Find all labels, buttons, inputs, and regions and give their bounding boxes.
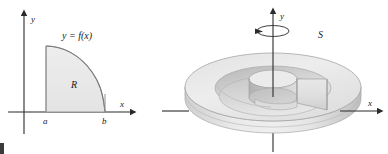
figure-container: y x y = f(x) R a b <box>0 0 388 154</box>
right-bound-label-b: b <box>102 116 107 126</box>
region-panel: y x y = f(x) R a b <box>8 14 131 134</box>
curve-equation-label: y = f(x) <box>61 30 93 42</box>
solid-panel: y x S <box>162 11 378 152</box>
region-x-axis-label: x <box>119 99 124 109</box>
solid-x-axis-label: x <box>367 98 372 108</box>
solid-y-axis-label: y <box>279 11 284 21</box>
solid-label-S: S <box>318 29 323 40</box>
region-y-axis-label: y <box>30 14 35 24</box>
figure-svg: y x y = f(x) R a b <box>0 0 388 154</box>
region-label-R: R <box>70 79 77 90</box>
left-bound-label-a: a <box>43 116 48 126</box>
page-edge-mark <box>0 143 4 154</box>
